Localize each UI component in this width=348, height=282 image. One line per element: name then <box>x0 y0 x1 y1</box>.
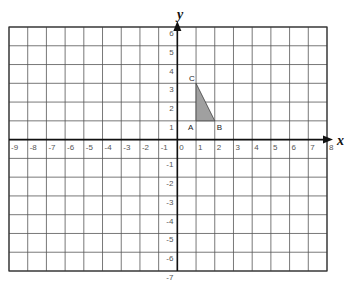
x-tick-label: -1 <box>161 143 169 152</box>
x-tick-label: 3 <box>235 143 240 152</box>
y-tick-label: 1 <box>169 123 174 132</box>
x-axis-label: x <box>336 133 344 148</box>
vertex-label-c: C <box>189 74 195 83</box>
y-tick-label: -1 <box>166 160 174 169</box>
grid-border <box>9 27 327 271</box>
y-tick-label: 2 <box>169 104 174 113</box>
y-axis-label: y <box>175 7 184 22</box>
vertex-label-a: A <box>188 123 194 132</box>
y-tick-label: 4 <box>169 67 174 76</box>
y-tick-label: 6 <box>169 29 174 38</box>
y-arrow-icon <box>173 21 181 31</box>
x-tick-label: -3 <box>123 143 131 152</box>
x-tick-label: -4 <box>105 143 113 152</box>
x-tick-label: 0 <box>179 143 184 152</box>
x-tick-label: -5 <box>86 143 94 152</box>
x-tick-label: 7 <box>310 143 315 152</box>
x-tick-label: 5 <box>273 143 278 152</box>
x-tick-label: -9 <box>11 143 19 152</box>
y-tick-label: -5 <box>166 235 174 244</box>
grid-lines <box>9 27 327 271</box>
y-tick-label: 3 <box>169 85 174 94</box>
x-tick-label: 6 <box>292 143 297 152</box>
y-tick-label: -6 <box>166 254 174 263</box>
vertex-label-b: B <box>217 123 222 132</box>
x-tick-label: 1 <box>198 143 203 152</box>
tick-labels: -9-8-7-6-5-4-3-2-1012345678654321-1-2-3-… <box>11 29 334 282</box>
y-tick-label: -4 <box>166 217 174 226</box>
y-tick-label: -7 <box>166 273 174 282</box>
x-tick-label: -7 <box>48 143 56 152</box>
y-tick-label: 5 <box>169 48 174 57</box>
y-tick-label: -3 <box>166 198 174 207</box>
x-tick-label: -8 <box>30 143 38 152</box>
x-tick-label: 8 <box>329 143 334 152</box>
coordinate-plane: ABC -9-8-7-6-5-4-3-2-1012345678654321-1-… <box>0 0 348 282</box>
y-tick-label: -2 <box>166 179 174 188</box>
x-tick-label: -6 <box>67 143 75 152</box>
x-tick-label: -2 <box>142 143 150 152</box>
x-tick-label: 4 <box>254 143 259 152</box>
x-tick-label: 2 <box>217 143 222 152</box>
